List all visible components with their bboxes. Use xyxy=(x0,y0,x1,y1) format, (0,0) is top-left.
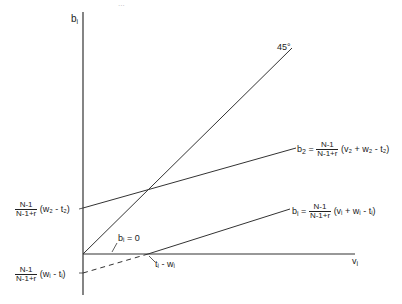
line-45-label: 45° xyxy=(277,43,291,52)
x-intercept-label: tᵢ - wᵢ xyxy=(155,260,175,269)
header-fragment: ... xyxy=(118,0,125,8)
line-45-degree xyxy=(83,48,292,254)
b1-line xyxy=(148,209,290,254)
y-axis-label: bi xyxy=(71,14,78,25)
bi-zero-label: bᵢ = 0 xyxy=(118,234,140,243)
b2-intercept-label: N-1N-1+r (w₂ - t₂) xyxy=(15,201,70,218)
b1-equation: bi = N-1N-1+r (vᵢ + wᵢ - tᵢ) xyxy=(292,203,376,220)
b2-line xyxy=(83,148,296,208)
b1-line-dashed-extension xyxy=(83,254,148,273)
bi-zero-pointer xyxy=(112,243,117,252)
x-axis-label: vi xyxy=(352,257,358,267)
b2-equation: b2 = N-1N-1+r (v₂ + w₂ - t₂) xyxy=(297,141,389,158)
b1-intercept-label: N-1N-1+r (wᵢ - tᵢ) xyxy=(15,266,66,283)
